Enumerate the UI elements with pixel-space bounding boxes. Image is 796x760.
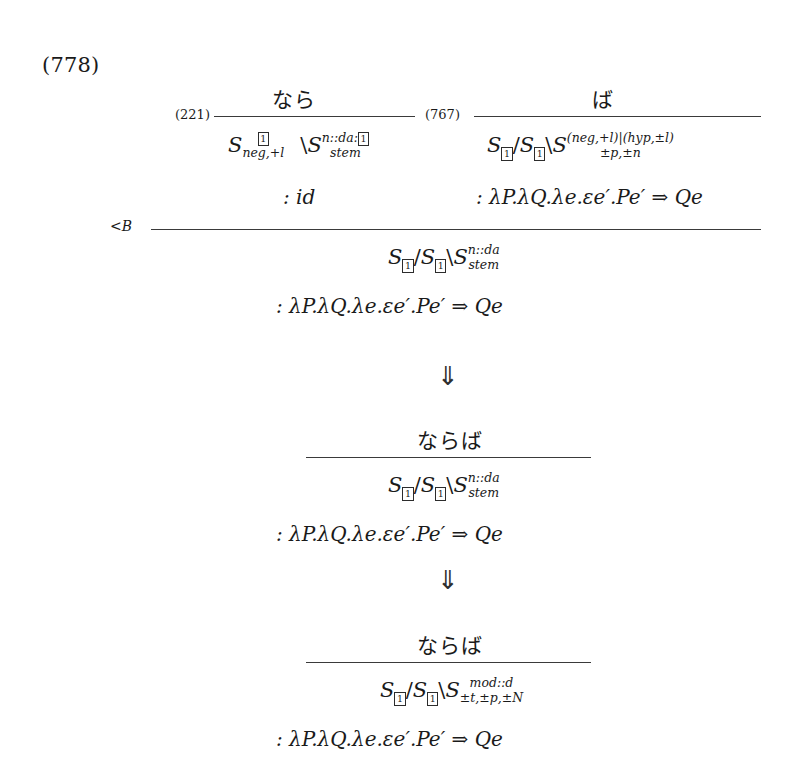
- premise-surface-ba: ば: [592, 83, 614, 113]
- stage2-semantics: : λP.λQ.λe.εe′.Pe′ ⇒ Qe: [276, 522, 503, 546]
- category-base-s: S: [520, 133, 534, 157]
- boxed-index-1: 1: [394, 692, 405, 706]
- boxed-index-1: 1: [435, 487, 446, 501]
- slash-forward-icon: /: [406, 678, 413, 702]
- category-base-s: S: [453, 473, 467, 497]
- inference-rule-line-main: [151, 229, 761, 230]
- stage3-category: S1/S1\Smod::d±t,±p,±N: [380, 671, 523, 702]
- category-base-s: S: [413, 678, 427, 702]
- category-base-s: S: [487, 133, 501, 157]
- premise-semantics-right: : λP.λQ.λe.εe′.Pe′ ⇒ Qe: [476, 185, 703, 209]
- premise-ref-221: (221): [175, 107, 210, 122]
- transformation-arrow-2: ⇓: [437, 567, 459, 593]
- boxed-index-1: 1: [402, 487, 413, 501]
- category-index: 1: [435, 485, 446, 501]
- category-index: 1: [435, 257, 446, 273]
- premise-surface-nara: なら: [272, 83, 316, 113]
- stage2-surface-naraba: ならば: [417, 424, 483, 454]
- category-base-s: S: [552, 133, 566, 157]
- category-sub-bottom: stem: [468, 258, 500, 273]
- transformation-arrow-1: ⇓: [437, 363, 459, 389]
- stage2-category: S1/S1\Sn::dastem: [388, 466, 500, 497]
- category-sub-top: n::da: [468, 471, 500, 486]
- stage3-rule-line: [306, 662, 591, 663]
- category-index: 1: [427, 690, 438, 706]
- category-index: 1: [501, 145, 512, 161]
- category-index-neg: 1neg,+l: [242, 131, 284, 161]
- category-base-s: S: [421, 245, 435, 269]
- category-index: 1: [534, 145, 545, 161]
- boxed-index-1: 1: [534, 147, 545, 161]
- boxed-index-1: 1: [258, 132, 269, 146]
- stage3-surface-naraba: ならば: [417, 629, 483, 659]
- derivation-block: (221) なら S1neg,+l\Sn::da:1stem : id (767…: [0, 0, 796, 340]
- slash-forward-icon: /: [414, 473, 421, 497]
- boxed-index-1: 1: [427, 692, 438, 706]
- boxed-index-1: 1: [501, 147, 512, 161]
- category-feature-stack: n::dastem: [468, 471, 500, 501]
- premise-category-left: S1neg,+l\Sn::da:1stem: [228, 126, 369, 157]
- category-base-s: S: [228, 133, 242, 157]
- inference-rule-label-backward-composition: <B: [110, 218, 132, 234]
- category-base-s: S: [445, 678, 459, 702]
- slash-forward-icon: /: [414, 245, 421, 269]
- category-sub-bottom: stem: [468, 486, 500, 501]
- premise-category-right: S1/S1\S(neg,+l)|(hyp,±l)±p,±n: [487, 126, 674, 157]
- category-base-s: S: [307, 133, 321, 157]
- premise-rule-line-right: [474, 116, 761, 117]
- category-base-s: S: [453, 245, 467, 269]
- conclusion-category: S1/S1\Sn::dastem: [388, 238, 500, 269]
- category-sub-top: n::da: [468, 243, 500, 258]
- category-index: 1: [402, 257, 413, 273]
- category-base-s: S: [388, 245, 402, 269]
- premise-ref-767: (767): [425, 107, 460, 122]
- boxed-index-1: 1: [402, 259, 413, 273]
- category-feature-hyp: (neg,+l)|(hyp,±l)±p,±n: [567, 131, 674, 161]
- premise-semantics-left: : id: [283, 185, 315, 209]
- category-base-s: S: [388, 473, 402, 497]
- stage2-rule-line: [306, 457, 591, 458]
- conclusion-semantics: : λP.λQ.λe.εe′.Pe′ ⇒ Qe: [276, 294, 503, 318]
- category-base-s: S: [380, 678, 394, 702]
- premise-rule-line-left: [214, 116, 415, 117]
- category-feature-nda-stem: n::da:1stem: [322, 131, 369, 161]
- category-feature-stack: mod::d±t,±p,±N: [460, 676, 523, 706]
- category-base-s: S: [421, 473, 435, 497]
- boxed-index-1: 1: [435, 259, 446, 273]
- category-feature-stack: n::dastem: [468, 243, 500, 273]
- category-sub-bottom: ±t,±p,±N: [460, 691, 523, 706]
- category-index: 1: [402, 485, 413, 501]
- slash-forward-icon: /: [513, 133, 520, 157]
- stage3-block: ならば S1/S1\Smod::d±t,±p,±N : λP.λQ.λe.εe′…: [0, 0, 796, 1]
- stage3-semantics: : λP.λQ.λe.εe′.Pe′ ⇒ Qe: [276, 727, 503, 751]
- boxed-index-1: 1: [358, 132, 369, 146]
- category-sub-top: mod::d: [460, 676, 523, 691]
- category-index: 1: [394, 690, 405, 706]
